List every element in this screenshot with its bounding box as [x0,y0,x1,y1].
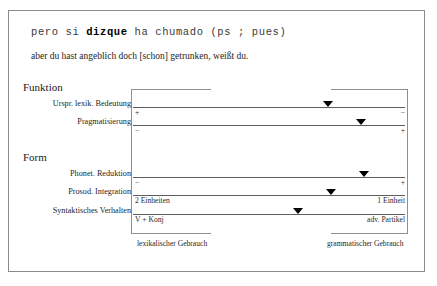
pole-left-prosod-integration: 2 Einheiten [135,196,170,205]
scale-line-syntaktisches-verhalten [133,214,405,215]
axis-caption-lexical: lexikalischer Gebrauch [137,239,207,248]
row-label-syntaktisches-verhalten: Syntaktisches Verhalten [21,206,131,215]
row-label-pragmatisierung: Pragmatisierung [21,117,131,126]
pole-right-urspr-lexik-bedeutung: − [401,108,405,117]
axis-caption-grammatical: grammatischer Gebrauch [327,239,404,248]
plot-bracket-top-left [131,89,211,90]
scale-marker-pragmatisierung[interactable] [356,119,366,125]
plot-bracket-right-side [407,89,408,234]
scale-line-prosod-integration [133,195,405,196]
pole-right-syntaktisches-verhalten: adv. Partikel [367,215,405,224]
pole-left-phonet-reduktion: − [135,178,139,187]
scale-marker-urspr-lexik-bedeutung[interactable] [323,101,333,107]
scale-marker-phonet-reduktion[interactable] [359,171,369,177]
plot-bracket-bottom-left [131,233,211,234]
scale-marker-prosod-integration[interactable] [326,189,336,195]
section-heading-funktion: Funktion [23,81,63,93]
pole-left-urspr-lexik-bedeutung: + [135,108,139,117]
pole-left-pragmatisierung: − [135,126,139,135]
plot-bracket-bottom-right [331,233,407,234]
scale-marker-syntaktisches-verhalten[interactable] [293,208,303,214]
axis-divider [131,89,132,234]
plot-bracket-top-right [331,89,407,90]
pole-right-phonet-reduktion: + [401,178,405,187]
grammaticalization-scale-chart: Funktion Form Urspr. lexik. Bedeutung + … [9,11,426,273]
scale-line-urspr-lexik-bedeutung [133,107,405,108]
row-label-phonet-reduktion: Phonet. Reduktion [21,169,131,178]
scale-line-pragmatisierung [133,125,405,126]
pole-right-prosod-integration: 1 Einheit [377,196,405,205]
pole-right-pragmatisierung: + [401,126,405,135]
row-label-urspr-lexik-bedeutung: Urspr. lexik. Bedeutung [21,99,131,108]
scale-line-phonet-reduktion [133,177,405,178]
section-heading-form: Form [23,151,47,163]
pole-left-syntaktisches-verhalten: V + Konj [135,215,164,224]
row-label-prosod-integration: Prosod. Integration [21,187,131,196]
figure-frame: pero si dizque ha chumado (ps ; pues) ab… [8,10,425,272]
